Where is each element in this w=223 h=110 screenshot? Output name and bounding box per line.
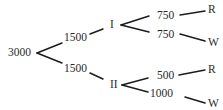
edge-root-to-upper — [37, 43, 62, 53]
node-I-label: I — [110, 19, 114, 31]
edge-root-to-lower — [37, 53, 62, 63]
I-outcome-W: W — [208, 37, 219, 49]
edge-I-to-upper — [121, 16, 149, 25]
II-lower-amount: 1000 — [150, 88, 173, 100]
edge-II-to-lower — [122, 85, 148, 92]
edge-upper-amount-to-I — [90, 29, 103, 34]
tree-diagram: 3000 1500 1500 I II 750 750 500 1000 R W… — [0, 0, 223, 110]
II-outcome-W: W — [208, 98, 219, 110]
node-II-label: II — [110, 79, 118, 91]
lower-amount-label: 1500 — [64, 63, 87, 75]
edge-I-750-to-R — [180, 11, 205, 15]
I-outcome-R: R — [208, 4, 216, 16]
tree-edges — [0, 0, 223, 110]
edge-lower-amount-to-II — [90, 73, 103, 79]
root-label: 3000 — [8, 47, 31, 59]
edge-I-750-to-W — [180, 34, 205, 41]
II-outcome-R: R — [208, 64, 216, 76]
I-upper-amount: 750 — [157, 10, 174, 22]
edge-I-to-lower — [121, 25, 149, 32]
upper-amount-label: 1500 — [64, 32, 87, 44]
I-lower-amount: 750 — [157, 29, 174, 41]
edge-II-to-upper — [122, 78, 148, 85]
edge-II-1000-to-W — [185, 97, 205, 103]
edge-II-500-to-R — [179, 70, 205, 75]
II-upper-amount: 500 — [157, 70, 174, 82]
